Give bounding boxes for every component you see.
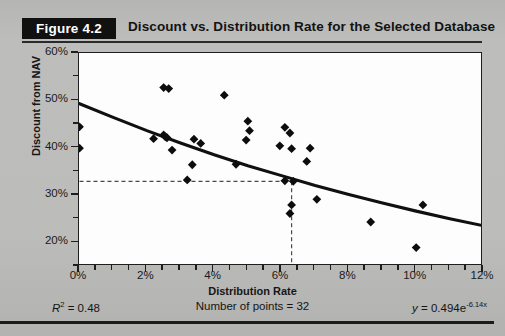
x-tick-minor [94, 265, 96, 270]
y-tick-major [71, 146, 78, 148]
y-tick-minor [73, 217, 78, 219]
data-point [305, 143, 314, 152]
y-tick-major [71, 193, 78, 195]
reference-lines [79, 181, 291, 265]
x-tick-minor [464, 265, 466, 270]
data-point [187, 160, 196, 169]
y-tick-label: 30% [32, 187, 68, 199]
x-tick-minor [128, 265, 130, 270]
data-point [280, 122, 289, 131]
y-tick-major [71, 241, 78, 243]
plot-svg [78, 52, 482, 265]
x-axis-title: Distribution Rate [0, 285, 505, 297]
x-tick-minor [380, 265, 382, 270]
footer-divider [0, 321, 494, 324]
equation-stat: y = 0.494e-6.14x [412, 300, 487, 314]
scatter-chart: Discount from NAV Distribution Rate 60%5… [0, 0, 505, 336]
x-tick-minor [431, 265, 433, 270]
x-tick-minor [313, 265, 315, 270]
data-point [285, 128, 294, 137]
x-tick-minor [296, 265, 298, 270]
x-tick-major [145, 265, 147, 272]
x-tick-minor [195, 265, 197, 270]
x-tick-major [347, 265, 349, 272]
data-point [182, 175, 191, 184]
x-tick-minor [111, 265, 113, 270]
x-tick-major [77, 265, 79, 272]
y-tick-minor [73, 122, 78, 124]
data-point [241, 135, 250, 144]
y-tick-major [71, 51, 78, 53]
x-tick-major [481, 265, 483, 272]
data-point [302, 157, 311, 166]
equation-body: = 0.494e [418, 302, 466, 314]
data-point [167, 145, 176, 154]
data-point [78, 122, 83, 131]
y-tick-label: 50% [32, 92, 68, 104]
data-point [196, 139, 205, 148]
y-tick-minor [73, 75, 78, 77]
data-point [285, 209, 294, 218]
data-point [189, 134, 198, 143]
x-tick-minor [363, 265, 365, 270]
data-point [312, 194, 321, 203]
equation-exponent: -6.14x [466, 300, 487, 309]
data-point [219, 90, 228, 99]
x-tick-major [212, 265, 214, 272]
x-tick-minor [161, 265, 163, 270]
x-tick-minor [262, 265, 264, 270]
x-tick-minor [178, 265, 180, 270]
data-point [78, 143, 83, 152]
x-tick-minor [397, 265, 399, 270]
y-tick-major [71, 99, 78, 101]
y-tick-label: 40% [32, 140, 68, 152]
data-point [275, 141, 284, 150]
data-point [418, 200, 427, 209]
data-point [245, 126, 254, 135]
x-tick-minor [448, 265, 450, 270]
data-point [411, 243, 420, 252]
plot-area [78, 52, 482, 265]
y-tick-label: 20% [32, 234, 68, 246]
data-point [243, 116, 252, 125]
y-tick-label: 60% [32, 45, 68, 57]
y-tick-minor [73, 170, 78, 172]
x-tick-minor [246, 265, 248, 270]
data-point [366, 217, 375, 226]
x-tick-major [279, 265, 281, 272]
data-point [287, 144, 296, 153]
x-tick-minor [330, 265, 332, 270]
x-tick-major [414, 265, 416, 272]
x-tick-minor [229, 265, 231, 270]
data-point [287, 200, 296, 209]
